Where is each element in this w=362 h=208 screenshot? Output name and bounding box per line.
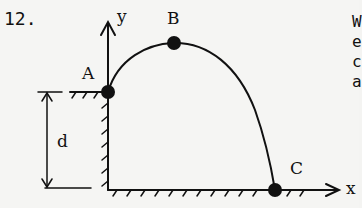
point-a-marker — [101, 85, 115, 99]
clipped-text-line-2: e — [352, 34, 362, 50]
clipped-text-line-4: a — [352, 74, 362, 90]
x-axis-label: x — [346, 180, 356, 197]
clipped-text-line-3: c — [352, 54, 362, 70]
y-axis-label: y — [117, 8, 127, 25]
trajectory-curve — [108, 43, 275, 190]
y-axis — [101, 22, 115, 190]
point-b-marker — [167, 36, 181, 50]
point-b-label: B — [167, 10, 180, 27]
dimension-d-label: d — [57, 133, 68, 150]
point-c-marker — [268, 183, 282, 197]
clipped-text-line-1: W — [352, 14, 362, 30]
point-a-label: A — [82, 65, 94, 82]
point-c-label: C — [290, 160, 303, 177]
